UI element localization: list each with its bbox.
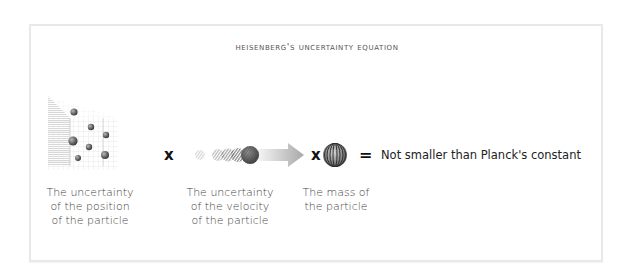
mass-sphere-icon — [322, 142, 348, 168]
velocity-label: The uncertainty of the velocity of the p… — [180, 186, 280, 228]
mass-label: The mass of the particle — [296, 186, 376, 214]
velocity-motion-icon — [190, 140, 306, 170]
diagram-title: Heisenberg's Uncertainty Equation — [0, 41, 634, 52]
times-operator-1: x — [164, 146, 174, 164]
result-text: Not smaller than Planck's constant — [381, 148, 581, 162]
position-label: The uncertainty of the position of the p… — [40, 186, 140, 228]
times-operator-2: x — [311, 146, 321, 164]
equals-operator: = — [359, 145, 372, 164]
position-grid-icon — [48, 96, 118, 170]
